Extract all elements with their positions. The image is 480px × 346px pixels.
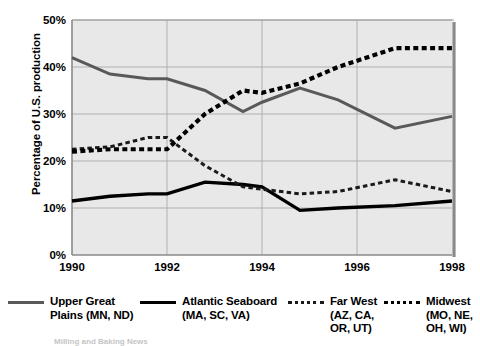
- legend-item-atlantic-seaboard[interactable]: Atlantic Seaboard (MA, SC, VA): [140, 295, 280, 322]
- legend-item-far-west[interactable]: Far West (AZ, CA, OR, UT): [288, 295, 380, 336]
- dashed-thin-line-icon: [288, 295, 324, 309]
- solid-gray-line-icon: [8, 295, 44, 309]
- x-tick-1998: 1998: [422, 261, 480, 273]
- source-footnote: Milling and Baking News: [54, 337, 148, 346]
- legend-label-far-west: Far West (AZ, CA, OR, UT): [330, 295, 377, 336]
- plot-area-wrapper: Percentage of U.S. production 50% 40% 30…: [0, 0, 480, 288]
- x-tick-1996: 1996: [327, 261, 387, 273]
- legend-label-upper-great-plains: Upper Great Plains (MN, ND): [50, 295, 133, 322]
- dashed-thick-line-icon: [384, 295, 420, 309]
- x-tick-1990: 1990: [42, 261, 102, 273]
- legend-label-midwest: Midwest (MO, NE, OH, WI): [426, 295, 473, 336]
- legend-item-upper-great-plains[interactable]: Upper Great Plains (MN, ND): [8, 295, 138, 322]
- chart-plot-canvas: [0, 0, 480, 288]
- line-chart-figure: Percentage of U.S. production 50% 40% 30…: [0, 0, 480, 346]
- legend-item-midwest[interactable]: Midwest (MO, NE, OH, WI): [384, 295, 479, 336]
- x-tick-1994: 1994: [232, 261, 292, 273]
- x-tick-1992: 1992: [137, 261, 197, 273]
- legend-label-atlantic-seaboard: Atlantic Seaboard (MA, SC, VA): [182, 295, 277, 322]
- solid-black-line-icon: [140, 295, 176, 309]
